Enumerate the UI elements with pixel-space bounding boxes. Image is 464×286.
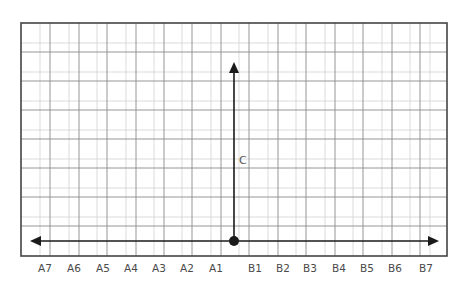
tick-label-b7: B7 — [419, 262, 433, 274]
tick-label-a6: A6 — [67, 262, 81, 274]
origin-point — [229, 236, 239, 246]
left-tick-labels: A7A6A5A4A3A2A1 — [38, 262, 223, 274]
vertical-axis-label: C — [239, 154, 247, 167]
grid-diagram: C A7A6A5A4A3A2A1 B1B2B3B4B5B6B7 — [0, 0, 464, 286]
tick-label-b6: B6 — [388, 262, 402, 274]
tick-label-b4: B4 — [332, 262, 346, 274]
tick-label-a5: A5 — [96, 262, 110, 274]
tick-label-b3: B3 — [303, 262, 317, 274]
right-tick-labels: B1B2B3B4B5B6B7 — [248, 262, 433, 274]
right-arrow-icon — [428, 236, 439, 246]
left-arrow-icon — [30, 236, 41, 246]
up-arrow-icon — [229, 62, 239, 73]
tick-label-a4: A4 — [124, 262, 138, 274]
tick-label-b2: B2 — [276, 262, 290, 274]
tick-label-b5: B5 — [360, 262, 374, 274]
tick-label-a2: A2 — [180, 262, 194, 274]
tick-label-a1: A1 — [209, 262, 223, 274]
tick-label-b1: B1 — [248, 262, 262, 274]
tick-label-a3: A3 — [152, 262, 166, 274]
tick-label-a7: A7 — [38, 262, 52, 274]
